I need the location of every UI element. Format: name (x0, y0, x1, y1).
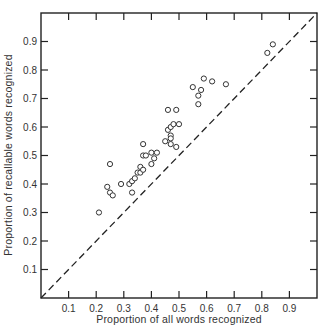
y-tick-label: 0.1 (23, 264, 37, 275)
x-axis-ticks: 0.10.20.30.40.50.60.70.80.9 (62, 291, 297, 314)
data-point-circle (149, 161, 154, 166)
data-point-circle (149, 150, 154, 155)
x-tick-label: 0.1 (62, 303, 76, 314)
x-axis-title: Proportion of all words recognized (96, 313, 262, 325)
data-point-circle (201, 76, 206, 81)
y-tick-label: 0.5 (23, 150, 37, 161)
data-point-circle (152, 156, 157, 161)
data-point-circle (105, 184, 110, 189)
y-tick-label: 0.2 (23, 236, 37, 247)
scatter-chart: 0.10.20.30.40.50.60.70.80.9 0.10.20.30.4… (0, 0, 328, 333)
data-point-circle (223, 82, 228, 87)
data-point-circle (210, 79, 215, 84)
y-tick-label: 0.9 (23, 36, 37, 47)
data-point-circle (118, 181, 123, 186)
data-point-circle (154, 150, 159, 155)
identity-reference-line (41, 13, 317, 298)
data-point-circle (198, 87, 203, 92)
data-point-circle (196, 93, 201, 98)
data-point-circle (174, 144, 179, 149)
data-point-circle (171, 122, 176, 127)
data-point-circle (96, 210, 101, 215)
y-axis-title: Proportion of recallable words recognize… (2, 54, 14, 255)
y-axis-ticks: 0.10.20.30.40.50.60.70.80.9 (23, 36, 48, 275)
data-point-circle (176, 122, 181, 127)
right-axis-ticks (310, 42, 317, 270)
data-point-circle (270, 42, 275, 47)
data-point-circle (107, 161, 112, 166)
data-point-circle (168, 136, 173, 141)
data-point-circle (265, 50, 270, 55)
data-points (96, 42, 275, 215)
data-point-circle (196, 102, 201, 107)
data-point-circle (141, 142, 146, 147)
y-tick-label: 0.6 (23, 122, 37, 133)
y-tick-label: 0.4 (23, 179, 37, 190)
data-point-circle (129, 190, 134, 195)
data-point-circle (165, 107, 170, 112)
data-point-circle (143, 153, 148, 158)
top-axis-ticks (69, 13, 290, 20)
y-tick-label: 0.3 (23, 207, 37, 218)
y-tick-label: 0.7 (23, 93, 37, 104)
x-tick-label: 0.9 (282, 303, 296, 314)
y-tick-label: 0.8 (23, 65, 37, 76)
data-point-circle (110, 193, 115, 198)
data-point-circle (190, 85, 195, 90)
data-point-circle (163, 139, 168, 144)
data-point-circle (168, 142, 173, 147)
data-point-circle (141, 167, 146, 172)
data-point-circle (132, 176, 137, 181)
data-point-circle (174, 107, 179, 112)
